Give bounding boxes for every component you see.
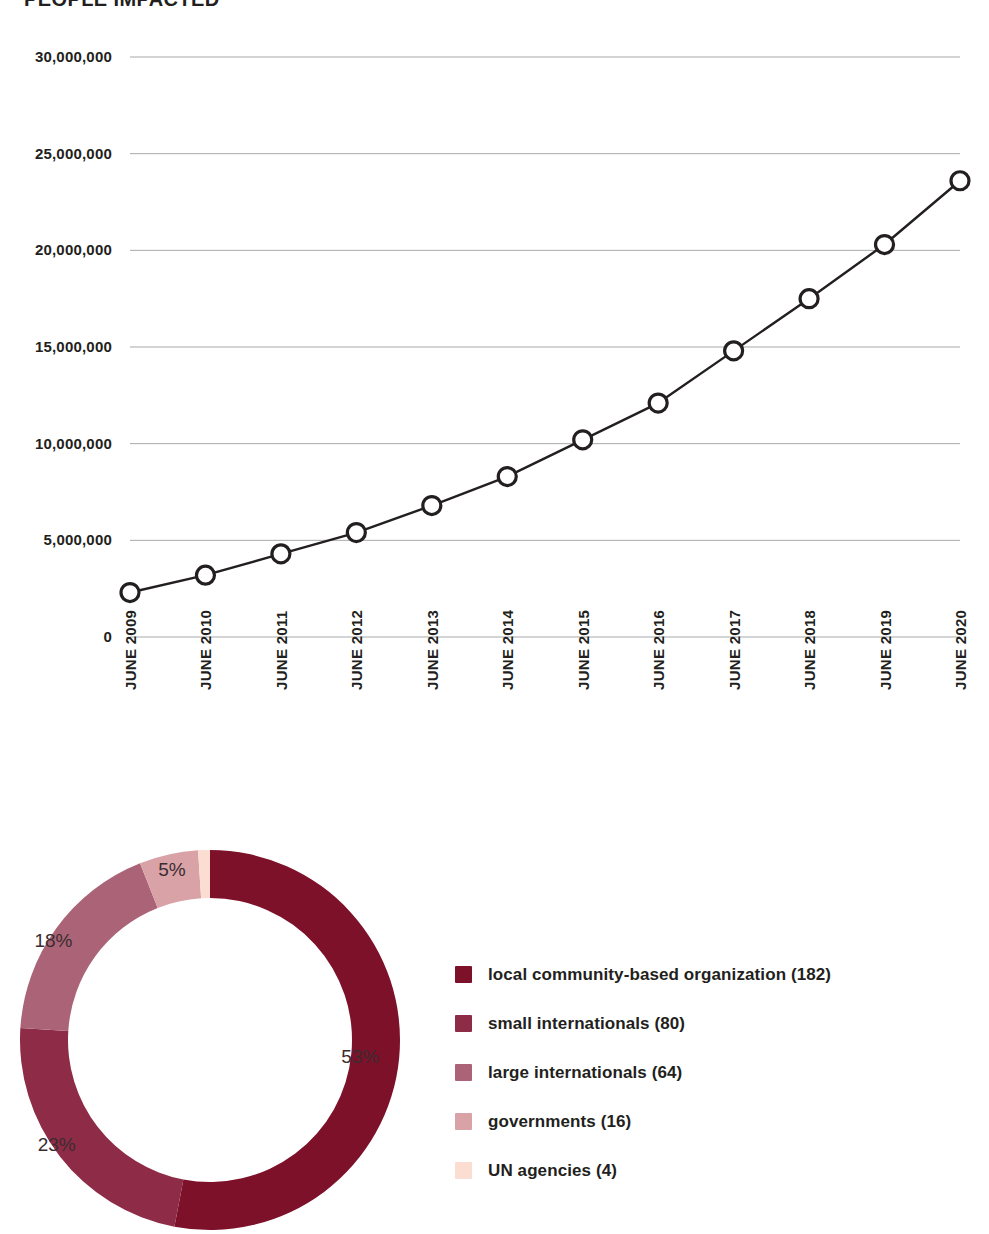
x-axis-tick-label: JUNE 2009 xyxy=(122,610,139,690)
data-point-marker xyxy=(800,290,818,308)
data-point-marker xyxy=(347,524,365,542)
donut-percent-label: 23% xyxy=(38,1134,76,1155)
y-axis-tick-label: 30,000,000 xyxy=(35,48,112,65)
data-point-marker xyxy=(725,342,743,360)
x-axis-tick-label: JUNE 2019 xyxy=(877,610,894,690)
y-axis-tick-label: 25,000,000 xyxy=(35,145,112,162)
donut-percent-label: 53% xyxy=(341,1046,379,1067)
x-axis-tick-label: JUNE 2016 xyxy=(650,610,667,690)
legend-item[interactable]: local community-based organization (182) xyxy=(455,950,831,999)
x-axis-tick-label: JUNE 2012 xyxy=(348,610,365,690)
y-axis-tick-label: 20,000,000 xyxy=(35,241,112,258)
donut-slice xyxy=(20,1028,183,1227)
data-point-marker xyxy=(121,584,139,602)
donut-percent-label: 5% xyxy=(158,859,186,880)
legend-item-label: large internationals (64) xyxy=(488,1063,682,1083)
y-axis-labels-group: 30,000,00025,000,00020,000,00015,000,000… xyxy=(35,48,112,645)
gridlines-group xyxy=(130,57,960,637)
y-axis-tick-label: 0 xyxy=(103,628,112,645)
legend-item[interactable]: governments (16) xyxy=(455,1097,831,1146)
legend-item-label: governments (16) xyxy=(488,1112,631,1132)
x-axis-tick-label: JUNE 2014 xyxy=(499,609,516,690)
donut-slices-group xyxy=(20,850,400,1230)
x-axis-tick-label: JUNE 2015 xyxy=(575,610,592,690)
x-axis-tick-label: JUNE 2011 xyxy=(273,611,290,690)
data-point-marker xyxy=(272,545,290,563)
legend-color-swatch xyxy=(455,1113,472,1130)
data-point-marker xyxy=(498,468,516,486)
data-point-markers-group xyxy=(121,172,969,602)
donut-percent-label: 18% xyxy=(34,930,72,951)
legend-item[interactable]: small internationals (80) xyxy=(455,999,831,1048)
data-point-marker xyxy=(951,172,969,190)
data-point-marker xyxy=(423,497,441,515)
data-point-marker xyxy=(649,394,667,412)
x-axis-labels-group: JUNE 2009JUNE 2010JUNE 2011JUNE 2012JUNE… xyxy=(122,609,969,690)
x-axis-tick-label: JUNE 2018 xyxy=(801,610,818,690)
legend-item[interactable]: UN agencies (4) xyxy=(455,1146,831,1195)
data-point-marker xyxy=(574,431,592,449)
data-point-marker xyxy=(196,566,214,584)
donut-legend: local community-based organization (182)… xyxy=(455,950,831,1195)
donut-chart-svg: 53%23%18%5%1% xyxy=(10,840,430,1234)
donut-slice xyxy=(174,850,400,1230)
line-chart-svg: 30,000,00025,000,00020,000,00015,000,000… xyxy=(0,0,989,820)
x-axis-tick-label: JUNE 2017 xyxy=(726,610,743,690)
y-axis-tick-label: 10,000,000 xyxy=(35,435,112,452)
legend-item-label: UN agencies (4) xyxy=(488,1161,617,1181)
y-axis-tick-label: 15,000,000 xyxy=(35,338,112,355)
legend-item-label: local community-based organization (182) xyxy=(488,965,831,985)
x-axis-tick-label: JUNE 2013 xyxy=(424,610,441,690)
series-line-path xyxy=(130,181,960,593)
data-point-marker xyxy=(876,236,894,254)
legend-color-swatch xyxy=(455,1162,472,1179)
legend-item-label: small internationals (80) xyxy=(488,1014,685,1034)
legend-item[interactable]: large internationals (64) xyxy=(455,1048,831,1097)
legend-color-swatch xyxy=(455,966,472,983)
y-axis-tick-label: 5,000,000 xyxy=(43,531,112,548)
x-axis-tick-label: JUNE 2020 xyxy=(952,610,969,690)
legend-color-swatch xyxy=(455,1015,472,1032)
line-chart-people-impacted: 30,000,00025,000,00020,000,00015,000,000… xyxy=(0,0,989,820)
legend-color-swatch xyxy=(455,1064,472,1081)
x-axis-tick-label: JUNE 2010 xyxy=(197,610,214,690)
